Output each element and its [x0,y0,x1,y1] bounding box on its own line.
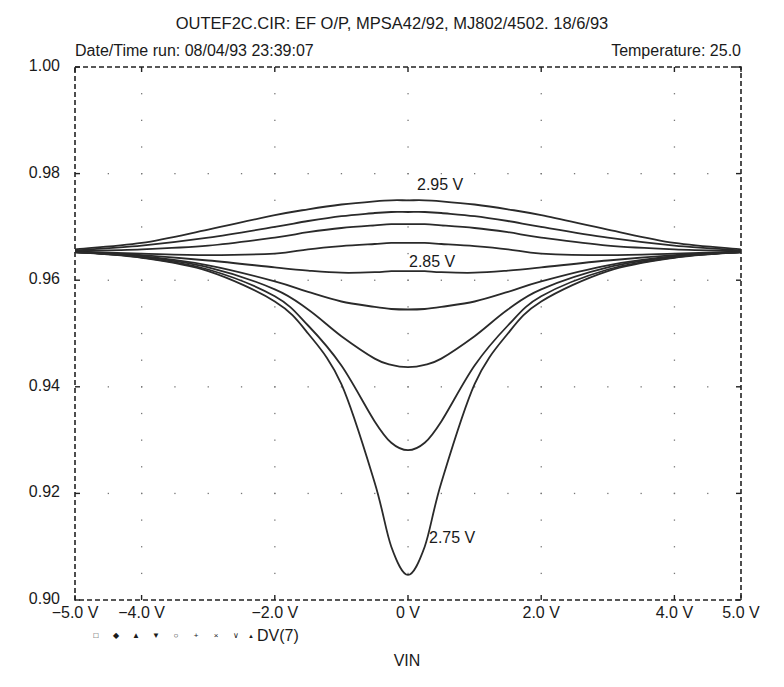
x-tick-label: 0 V [373,604,443,622]
y-marker-icon: ∨ [226,628,246,644]
plot-area: 2.95 V2.85 V2.75 V [0,0,784,687]
small-triangle-marker-icon: ▲ [246,628,256,644]
x-tick-label: −2.0 V [240,604,310,622]
curve-annotation-label: 2.95 V [417,176,464,193]
square-marker-icon: □ [86,628,106,644]
y-tick-label: 0.96 [0,270,60,288]
y-tick-label: 1.00 [0,57,60,75]
x-tick-label: −5.0 V [40,604,110,622]
x-tick-label: −4.0 V [107,604,177,622]
cross-marker-icon: × [206,628,226,644]
y-tick-label: 0.98 [0,164,60,182]
plus-marker-icon: + [186,628,206,644]
x-tick-label: 5.0 V [706,604,776,622]
data-series-curve [75,212,741,250]
legend-series-label: DV(7) [257,627,299,645]
y-tick-label: 0.92 [0,483,60,501]
curve-annotation-label: 2.75 V [429,529,476,546]
diamond-marker-icon: ◆ [106,628,126,644]
triangle-down-marker-icon: ▼ [146,628,166,644]
data-series-curve [75,252,741,450]
y-tick-label: 0.94 [0,377,60,395]
circle-marker-icon: ○ [166,628,186,644]
x-tick-label: 4.0 V [639,604,709,622]
x-tick-label: 2.0 V [506,604,576,622]
curve-annotation-label: 2.85 V [409,253,456,270]
grid-dots [108,93,709,574]
legend: □ ◆ ▲ ▼ ○ + × ∨ ▲ DV(7) [86,627,299,645]
triangle-up-marker-icon: ▲ [126,628,146,644]
x-axis-label: VIN [377,652,437,670]
